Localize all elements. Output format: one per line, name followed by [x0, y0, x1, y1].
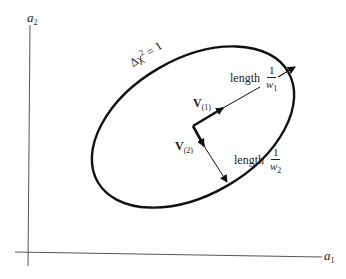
diagram-canvas	[0, 0, 346, 279]
a1-axis-label: a1	[324, 249, 335, 265]
v2-vector	[193, 126, 204, 146]
a1-axis	[15, 252, 322, 257]
v2-label: V(2)	[175, 140, 193, 155]
v2-fraction: 1 w2	[270, 147, 281, 175]
v1-length-label: length 1 w1	[230, 65, 277, 93]
a2-axis-label: a2	[27, 11, 38, 27]
a2-axis	[28, 25, 30, 266]
v2-length-arrow	[204, 146, 227, 182]
v1-fraction: 1 w1	[266, 65, 277, 93]
v1-label: V(1)	[193, 97, 211, 112]
v2-length-label: length 1 w2	[234, 147, 281, 175]
